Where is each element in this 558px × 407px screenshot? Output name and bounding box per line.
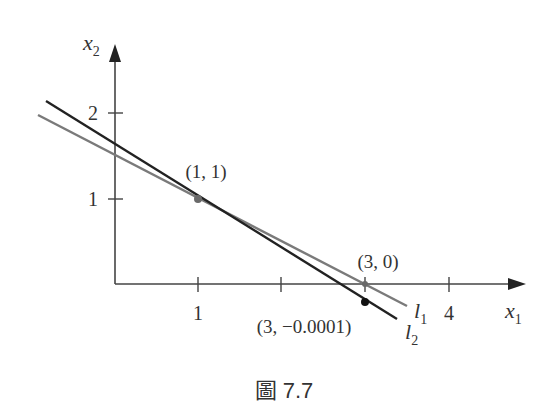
line-label-l1: l1	[414, 298, 427, 327]
point-label-3-neg: (3, −0.0001)	[257, 316, 352, 338]
y-axis-label: x2	[82, 30, 100, 59]
x-axis-arrow-icon	[508, 278, 526, 290]
point-3-0	[362, 281, 368, 287]
line-l2	[46, 101, 397, 319]
point-3-neg	[361, 298, 369, 306]
point-1-1	[194, 195, 202, 203]
y-tick-label-2: 2	[88, 102, 98, 124]
point-label-3-0: (3, 0)	[357, 251, 398, 273]
diagram-figure: 1 4 1 2 x2 x1 (1, 1) (3, 0) (3, −0.0001)…	[0, 0, 558, 407]
x-tick-label-4: 4	[444, 302, 454, 324]
x-tick-label-1: 1	[193, 302, 203, 324]
y-tick-label-1: 1	[88, 188, 98, 210]
y-axis-arrow-icon	[109, 44, 121, 62]
point-label-1-1: (1, 1)	[185, 161, 226, 183]
x-axis-label: x1	[504, 298, 522, 327]
figure-caption: 圖 7.7	[255, 378, 314, 403]
line-label-l2: l2	[405, 319, 418, 348]
